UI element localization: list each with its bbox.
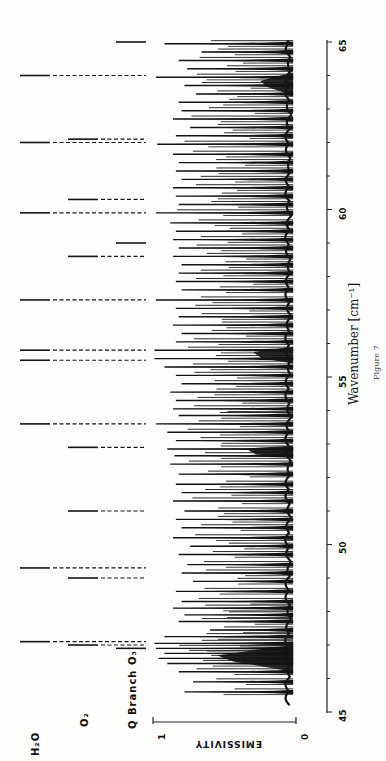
spectral-line-wing <box>190 125 293 129</box>
spectral-line-wing <box>187 562 293 566</box>
spectral-line-wing <box>182 288 294 292</box>
legend-label-o2: O₂ <box>79 712 90 727</box>
wavenumber-tick-label-60: 60 <box>338 207 348 220</box>
figure-caption: Figure 7 <box>372 345 381 380</box>
spectrum-figure: H₂O O₂ Q Branch O₃ 1 0 EMISSIVITY 45 50 … <box>0 0 386 761</box>
spectral-line-wing <box>176 306 293 310</box>
spectral-line-wing <box>190 544 293 548</box>
spectral-line-wing <box>167 430 293 434</box>
spectral-line-wing <box>157 142 293 146</box>
wavenumber-tick-label-65: 65 <box>338 39 348 52</box>
emissivity-tick-label-0: 0 <box>300 734 310 740</box>
emission-spectrum <box>154 40 293 705</box>
spectral-line-wing <box>182 108 294 112</box>
spectral-line-wing <box>176 134 293 138</box>
spectral-line-wing <box>176 398 293 402</box>
blended-band <box>260 72 293 95</box>
spectral-line-wing <box>179 246 293 250</box>
legend-label-q-branch-o3: Q Branch O₃ <box>127 650 138 729</box>
spectral-line-wing <box>193 579 293 583</box>
spectral-line-wing <box>182 526 294 530</box>
spectral-line-wing <box>154 641 293 645</box>
line-position-markers <box>20 42 146 648</box>
spectral-line-wing <box>187 67 293 71</box>
spectral-line-wing <box>182 177 294 181</box>
spectral-line-wing <box>179 202 293 206</box>
spectral-line-wing <box>156 298 293 302</box>
emissivity-tick-label-1: 1 <box>157 734 167 740</box>
spectral-line-wing <box>176 438 293 442</box>
spectral-line-wing <box>176 279 293 283</box>
spectral-line-wing <box>170 462 293 466</box>
spectral-line-wing <box>179 619 293 623</box>
spectral-line-wing <box>182 599 294 603</box>
spectral-line-wing <box>182 263 294 267</box>
spectral-line-wing <box>196 92 293 96</box>
spectral-line-wing <box>179 271 293 275</box>
spectral-line-wing <box>179 670 293 674</box>
spectral-line-wing <box>176 482 293 486</box>
spectral-line-wing <box>164 41 293 45</box>
spectral-line-wing <box>182 571 294 575</box>
wavenumber-ticks <box>327 42 332 712</box>
spectral-line-wing <box>182 382 294 386</box>
spectral-line-wing <box>170 390 293 394</box>
spectral-line-wing <box>170 221 293 225</box>
spectral-line-wing <box>179 315 293 319</box>
spectral-line-wing <box>179 472 293 476</box>
spectral-line-wing <box>173 606 293 610</box>
wavenumber-tick-label-50: 50 <box>338 541 348 554</box>
spectral-line-wing <box>182 490 294 494</box>
spectral-line-wing <box>179 100 293 104</box>
emissivity-spectrum-plot <box>0 0 386 761</box>
spectral-line-wing <box>202 50 294 54</box>
spectral-line-wing <box>173 323 293 327</box>
spectral-line-wing <box>210 628 293 632</box>
spectral-line-wing <box>184 613 293 617</box>
spectral-line-wing <box>179 160 293 164</box>
spectral-line-wing <box>173 186 293 190</box>
spectral-line-wing <box>164 634 293 638</box>
spectral-line-wing <box>156 422 293 426</box>
spectral-line-wing <box>173 117 293 121</box>
spectral-line-wing <box>179 413 293 417</box>
spectral-line-wing <box>176 517 293 521</box>
emissivity-axis-title: EMISSIVITY <box>195 739 262 749</box>
spectral-line-wing <box>164 365 293 369</box>
legend-label-h2o: H₂O <box>30 732 41 756</box>
spectral-line-wing <box>173 152 293 156</box>
spectral-line-wing <box>173 499 293 503</box>
wavenumber-axis-title: Wavenumber [cm⁻¹] <box>347 283 361 405</box>
spectral-line-wing <box>179 552 293 556</box>
spectral-line-wing <box>156 211 293 215</box>
wavenumber-tick-label-45: 45 <box>338 709 348 722</box>
spectral-line-wing <box>182 331 294 335</box>
spectral-line-wing <box>173 536 293 540</box>
spectral-line-wing <box>184 509 293 513</box>
spectral-line-wing <box>176 373 293 377</box>
spectral-line-wing <box>176 340 293 344</box>
spectral-line-wing <box>184 690 293 694</box>
spectral-line-wing <box>176 194 293 198</box>
spectral-line-wing <box>176 169 293 173</box>
spectral-line-wing <box>173 407 293 411</box>
spectral-line-wing <box>173 254 293 258</box>
spectral-line-wing <box>173 237 293 241</box>
spectral-line-wing <box>193 680 293 684</box>
spectral-line-wing <box>179 58 293 62</box>
spectral-line-wing <box>176 229 293 233</box>
spectral-line-wing <box>176 589 293 593</box>
